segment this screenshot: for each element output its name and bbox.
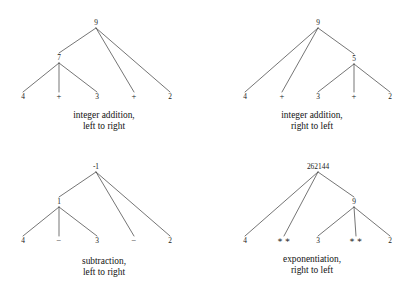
tree-node-inner: 7 xyxy=(57,53,61,62)
tree-edge xyxy=(245,172,318,236)
tree-node-root: 262144 xyxy=(307,162,329,171)
tree-node-leaf5: 2 xyxy=(388,92,392,101)
tree-caption-exponentiation-right-to-left: exponentiation,right to left xyxy=(208,254,416,277)
caption-line-2: right to left xyxy=(208,121,416,132)
tree-edge xyxy=(59,63,97,92)
caption-line-2: left to right xyxy=(0,267,208,278)
tree-node-leaf3: 3 xyxy=(316,236,320,245)
tree-edge xyxy=(59,28,96,53)
tree-panel-integer-addition-right-to-left: 954+3+2integer addition,right to left xyxy=(208,0,416,146)
tree-edge xyxy=(282,28,318,92)
tree-panel-exponentiation-right-to-left: 26214494∗ ∗3∗ ∗2exponentiation,right to … xyxy=(208,146,416,292)
tree-edge xyxy=(59,172,96,197)
caption-line-2: right to left xyxy=(208,265,416,276)
tree-edge xyxy=(23,63,59,92)
tree-node-leaf1: 4 xyxy=(21,236,25,245)
tree-edge xyxy=(96,172,170,236)
tree-edge xyxy=(354,207,356,236)
tree-node-leaf4: + xyxy=(132,91,137,101)
tree-node-leaf3: 3 xyxy=(95,236,99,245)
tree-panel-subtraction-left-to-right: -114−3−2subtraction,left to right xyxy=(0,146,208,292)
tree-caption-subtraction-left-to-right: subtraction,left to right xyxy=(0,256,208,279)
tree-node-leaf3: 3 xyxy=(95,92,99,101)
tree-node-root: -1 xyxy=(93,162,99,171)
tree-edge xyxy=(59,207,97,236)
tree-node-leaf1: 4 xyxy=(243,92,247,101)
tree-edge xyxy=(354,207,390,236)
tree-edge xyxy=(354,64,390,92)
tree-node-leaf3: 3 xyxy=(316,92,320,101)
tree-edge xyxy=(318,28,354,54)
parse-tree-figure: 974+3+2integer addition,left to right954… xyxy=(0,0,416,293)
tree-node-leaf1: 4 xyxy=(21,92,25,101)
tree-node-leaf5: 2 xyxy=(388,236,392,245)
tree-node-leaf1: 4 xyxy=(243,236,247,245)
tree-edge xyxy=(96,28,134,92)
tree-edge xyxy=(23,207,59,236)
caption-line-1: exponentiation, xyxy=(208,254,416,265)
caption-line-1: integer addition, xyxy=(208,110,416,121)
tree-node-leaf4: + xyxy=(352,91,357,101)
tree-node-leaf2: + xyxy=(280,91,285,101)
tree-caption-integer-addition-right-to-left: integer addition,right to left xyxy=(208,110,416,133)
caption-line-1: integer addition, xyxy=(0,110,208,121)
tree-node-root: 9 xyxy=(316,18,320,27)
tree-edge xyxy=(245,28,318,92)
tree-node-leaf2: + xyxy=(57,91,62,101)
tree-node-inner: 1 xyxy=(57,197,61,206)
tree-node-leaf2: − xyxy=(57,235,62,245)
tree-edge xyxy=(96,28,170,92)
caption-line-1: subtraction, xyxy=(0,256,208,267)
tree-edge xyxy=(318,64,354,92)
tree-edge xyxy=(96,172,134,236)
tree-edge xyxy=(318,207,354,236)
tree-node-leaf5: 2 xyxy=(168,236,172,245)
tree-node-leaf5: 2 xyxy=(168,92,172,101)
tree-node-leaf2: ∗ ∗ xyxy=(277,235,290,245)
tree-node-leaf4: ∗ ∗ xyxy=(349,235,362,245)
tree-edge xyxy=(284,172,318,236)
tree-node-inner: 5 xyxy=(352,54,356,63)
tree-edge xyxy=(318,172,354,197)
tree-node-leaf4: − xyxy=(132,235,137,245)
tree-node-inner: 9 xyxy=(352,197,356,206)
tree-node-root: 9 xyxy=(94,18,98,27)
tree-panel-integer-addition-left-to-right: 974+3+2integer addition,left to right xyxy=(0,0,208,146)
tree-caption-integer-addition-left-to-right: integer addition,left to right xyxy=(0,110,208,133)
caption-line-2: left to right xyxy=(0,121,208,132)
